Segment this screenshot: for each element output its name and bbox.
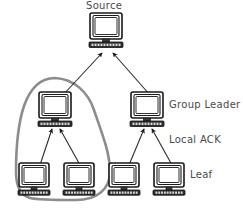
- monitor-keyboard-icon: [38, 121, 72, 127]
- node-leader-right[interactable]: Group Leader: [130, 92, 241, 127]
- edge-leaf-3-to-leader-right: [129, 129, 144, 165]
- monitor-keyboard-icon: [89, 42, 123, 48]
- monitor-neck-icon: [76, 187, 82, 190]
- node-leader-left[interactable]: [38, 92, 72, 127]
- edge-leader-right-to-source: [113, 53, 150, 95]
- local-ack-label: Local ACK: [169, 134, 221, 145]
- monitor-neck-icon: [166, 187, 172, 190]
- node-leaf-4[interactable]: Leaf: [153, 163, 213, 195]
- monitor-neck-icon: [52, 118, 59, 121]
- monitor-screen-icon: [44, 97, 66, 114]
- node-leaf-3[interactable]: [108, 163, 140, 195]
- monitor-screen-icon: [136, 97, 158, 114]
- monitor-screen-icon: [69, 168, 89, 183]
- source-label: Source: [86, 0, 122, 11]
- diagram-canvas: Source: [0, 0, 243, 211]
- monitor-keyboard-icon: [63, 190, 95, 195]
- group-leader-label: Group Leader: [169, 99, 241, 110]
- monitor-neck-icon: [103, 39, 110, 42]
- monitor-neck-icon: [144, 118, 151, 121]
- node-source[interactable]: Source: [86, 0, 123, 48]
- monitor-neck-icon: [31, 187, 37, 190]
- monitor-screen-icon: [114, 168, 134, 183]
- leaf-label: Leaf: [190, 169, 213, 180]
- monitor-screen-icon: [95, 18, 117, 35]
- edge-leader-left-to-source: [63, 53, 102, 95]
- monitor-keyboard-icon: [18, 190, 50, 195]
- monitor-keyboard-icon: [130, 121, 164, 127]
- edge-leaf-1-to-leader-left: [40, 129, 52, 165]
- node-leaf-2[interactable]: [63, 163, 95, 195]
- monitor-screen-icon: [159, 168, 179, 183]
- network-diagram: Source: [0, 0, 243, 211]
- monitor-keyboard-icon: [153, 190, 185, 195]
- edge-leaf-2-to-leader-left: [60, 129, 80, 165]
- monitor-keyboard-icon: [108, 190, 140, 195]
- node-leaf-1[interactable]: [18, 163, 50, 195]
- monitor-neck-icon: [121, 187, 127, 190]
- monitor-screen-icon: [24, 168, 44, 183]
